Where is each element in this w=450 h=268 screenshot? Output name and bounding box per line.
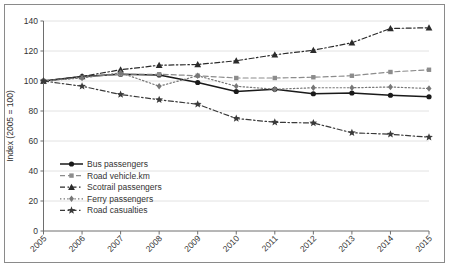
data-point-marker [273, 76, 277, 80]
data-point-marker [195, 73, 200, 79]
legend-item-scotrail-passengers[interactable]: Scotrail passengers [60, 182, 162, 192]
data-point-marker [427, 85, 432, 91]
data-point-marker [387, 25, 394, 31]
legend-label: Road vehicle.km [87, 171, 150, 181]
data-point-marker [157, 72, 161, 76]
chart-figure: 020406080100120140Index (2005 = 100)2005… [0, 0, 450, 268]
data-point-marker [232, 114, 240, 121]
y-tick-label: 100 [24, 76, 38, 86]
series-line [44, 28, 430, 81]
data-point-marker [388, 84, 393, 90]
data-point-marker [234, 83, 239, 89]
legend-label: Bus passengers [87, 159, 148, 169]
y-tick-label: 20 [29, 196, 39, 206]
legend-item-road-casualties[interactable]: Road casualties [60, 205, 147, 215]
data-point-marker [348, 129, 356, 136]
y-tick-label: 0 [33, 226, 38, 236]
x-axis-ticks: 2005200620072008200920102011201220132014… [28, 231, 434, 254]
x-tick-label: 2008 [144, 233, 165, 254]
legend-label: Scotrail passengers [87, 182, 162, 192]
data-point-marker [69, 173, 73, 177]
data-point-marker [78, 82, 86, 89]
data-point-marker [234, 76, 238, 80]
x-tick-label: 2014 [375, 233, 396, 254]
data-point-marker [117, 90, 125, 97]
data-point-marker [309, 119, 317, 126]
data-point-marker [155, 96, 163, 103]
x-tick-label: 2005 [28, 233, 49, 254]
y-axis-ticks: 020406080100120140 [24, 16, 44, 236]
data-point-marker [388, 93, 393, 98]
data-point-marker [157, 83, 162, 89]
data-point-marker [69, 161, 74, 166]
y-tick-label: 80 [29, 106, 39, 116]
data-point-marker [426, 94, 431, 99]
x-tick-label: 2015 [413, 233, 434, 254]
data-point-marker [272, 86, 277, 92]
legend-item-ferry-passengers[interactable]: Ferry passengers [60, 194, 153, 204]
x-tick-label: 2012 [298, 233, 319, 254]
data-point-marker [350, 74, 354, 78]
data-point-marker [311, 85, 316, 91]
x-tick-label: 2009 [182, 233, 203, 254]
y-tick-label: 40 [29, 166, 39, 176]
data-point-marker [194, 100, 202, 107]
y-tick-label: 120 [24, 46, 38, 56]
data-point-marker [387, 130, 395, 137]
data-point-marker [425, 133, 433, 140]
data-point-marker [311, 91, 316, 96]
chart-legend: Bus passengersRoad vehicle.kmScotrail pa… [60, 159, 162, 215]
data-point-marker [349, 90, 354, 95]
legend-item-road-vehicle-km[interactable]: Road vehicle.km [60, 171, 150, 181]
y-axis-title: Index (2005 = 100) [5, 90, 15, 162]
legend-label: Road casualties [87, 205, 147, 215]
y-tick-label: 60 [29, 136, 39, 146]
data-point-marker [349, 85, 354, 91]
data-point-marker [311, 75, 315, 79]
x-tick-label: 2013 [336, 233, 357, 254]
y-tick-label: 140 [24, 16, 38, 26]
data-point-marker [234, 89, 239, 94]
data-point-marker [195, 80, 200, 85]
legend-label: Ferry passengers [87, 194, 153, 204]
x-tick-label: 2007 [105, 233, 126, 254]
data-point-marker [271, 118, 279, 125]
legend-item-bus-passengers[interactable]: Bus passengers [60, 159, 148, 169]
data-point-marker [388, 70, 392, 74]
x-tick-label: 2010 [221, 233, 242, 254]
x-tick-label: 2006 [67, 233, 88, 254]
line-chart: 020406080100120140Index (2005 = 100)2005… [0, 0, 450, 268]
data-point-marker [68, 206, 76, 213]
x-tick-label: 2011 [260, 233, 280, 253]
data-point-marker [427, 68, 431, 72]
